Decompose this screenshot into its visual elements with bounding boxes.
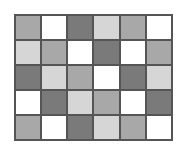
grid-cell-r2-c5 — [120, 40, 146, 65]
grid-cell-r4-c1 — [15, 90, 41, 115]
grid-cell-r2-c6 — [146, 40, 172, 65]
grid-cell-r4-c6 — [146, 90, 172, 115]
grid-cell-r5-c6 — [146, 115, 172, 140]
grid-cell-r2-c3 — [67, 40, 93, 65]
grid-cell-r2-c1 — [15, 40, 41, 65]
grid-cell-r1-c5 — [120, 15, 146, 40]
grid-cell-r4-c4 — [93, 90, 119, 115]
grid-cell-r5-c5 — [120, 115, 146, 140]
grid-cell-r4-c3 — [67, 90, 93, 115]
grid-cell-r3-c1 — [15, 65, 41, 90]
grid-cell-r1-c4 — [93, 15, 119, 40]
grid-cell-r3-c2 — [41, 65, 67, 90]
grid-cell-r5-c2 — [41, 115, 67, 140]
grid-cell-r2-c4 — [93, 40, 119, 65]
grid-cell-r3-c5 — [120, 65, 146, 90]
shaded-grid — [14, 14, 173, 141]
grid-cell-r4-c5 — [120, 90, 146, 115]
grid-cell-r3-c6 — [146, 65, 172, 90]
grid-cell-r1-c6 — [146, 15, 172, 40]
grid-cell-r5-c4 — [93, 115, 119, 140]
grid-cell-r2-c2 — [41, 40, 67, 65]
grid-cell-r1-c2 — [41, 15, 67, 40]
grid-cell-r1-c3 — [67, 15, 93, 40]
grid-cell-r4-c2 — [41, 90, 67, 115]
grid-cell-r3-c3 — [67, 65, 93, 90]
grid-cell-r5-c3 — [67, 115, 93, 140]
grid-cell-r1-c1 — [15, 15, 41, 40]
grid-cell-r5-c1 — [15, 115, 41, 140]
grid-cell-r3-c4 — [93, 65, 119, 90]
